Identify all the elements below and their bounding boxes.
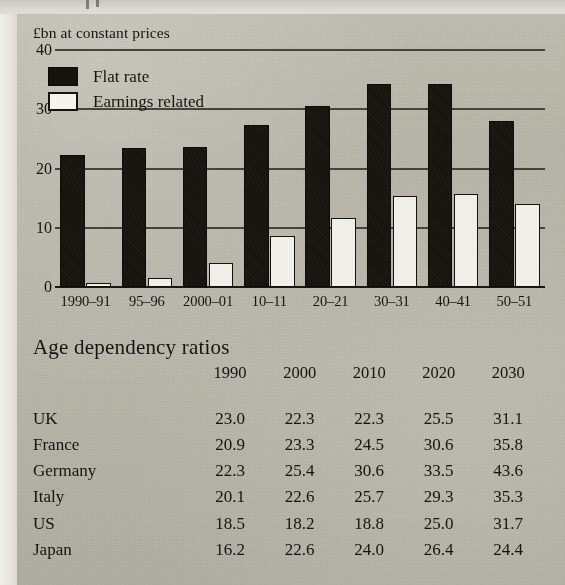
- bar-earnings-related: [515, 204, 540, 287]
- table-cell-germany-2020: 33.5: [406, 458, 476, 484]
- table-cell-us-2030: 31.7: [475, 510, 545, 536]
- legend-swatch-flat-rate-icon: [48, 67, 78, 86]
- table-header-row: 19902000201020202030: [33, 363, 545, 405]
- age-dependency-ratios-table: 19902000201020202030 UK23.022.322.325.53…: [33, 363, 545, 563]
- x-axis-label: 30–31: [361, 293, 422, 310]
- table-cell-us-1990: 18.5: [197, 510, 267, 536]
- bar-earnings-related: [148, 278, 173, 287]
- bar-earnings-related: [454, 194, 479, 287]
- table-cell-uk-2000: 22.3: [267, 405, 337, 431]
- clipped-text-above-crop: [0, 0, 565, 14]
- bar-group: [300, 50, 361, 287]
- legend-item-flat-rate: Flat rate: [48, 64, 278, 89]
- table-row-label: Japan: [33, 536, 197, 562]
- y-axis-tick-label-0: 0: [6, 279, 52, 295]
- table-cell-germany-2030: 43.6: [475, 458, 545, 484]
- bar-flat-rate: [244, 125, 269, 287]
- bar-earnings-related: [393, 196, 418, 287]
- chart-unit-label: £bn at constant prices: [33, 24, 170, 42]
- table-cell-germany-2000: 25.4: [267, 458, 337, 484]
- x-axis-label: 50–51: [484, 293, 545, 310]
- table-cell-uk-2030: 31.1: [475, 405, 545, 431]
- bar-earnings-related: [270, 236, 295, 287]
- table-row: US18.518.218.825.031.7: [33, 510, 545, 536]
- legend-swatch-earnings-related-icon: [48, 92, 78, 111]
- table-title: Age dependency ratios: [33, 335, 230, 360]
- table-row-label: Italy: [33, 484, 197, 510]
- bar-flat-rate: [60, 155, 85, 287]
- bar-earnings-related: [209, 263, 234, 287]
- x-axis-label: 2000–01: [178, 293, 239, 310]
- table-head: 19902000201020202030: [33, 363, 545, 405]
- table-header-year-2010: 2010: [336, 363, 406, 405]
- table-row: Germany22.325.430.633.543.6: [33, 458, 545, 484]
- table-cell-japan-2000: 22.6: [267, 536, 337, 562]
- table-cell-japan-2010: 24.0: [336, 536, 406, 562]
- bar-flat-rate: [367, 84, 392, 287]
- bar-earnings-related: [331, 218, 356, 287]
- y-axis-tick-label-10: 10: [6, 220, 52, 236]
- age-dependency-table-block: Age dependency ratios 199020002010202020…: [0, 335, 565, 585]
- bar-flat-rate: [489, 121, 514, 287]
- table-row-label: US: [33, 510, 197, 536]
- scanned-page: £bn at constant prices 010203040 1990–91…: [0, 0, 565, 585]
- x-axis-label: 10–11: [239, 293, 300, 310]
- y-axis-tick-label-40: 40: [6, 42, 52, 58]
- table-cell-france-2010: 24.5: [336, 431, 406, 457]
- x-axis-label: 1990–91: [55, 293, 116, 310]
- table-row: Japan16.222.624.026.424.4: [33, 536, 545, 562]
- y-axis-tick-label-30: 30: [6, 101, 52, 117]
- bar-flat-rate: [183, 147, 208, 287]
- bar-group: [484, 50, 545, 287]
- x-axis-labels: 1990–9195–962000–0110–1120–2130–3140–415…: [55, 293, 545, 319]
- table-cell-italy-2030: 35.3: [475, 484, 545, 510]
- bar-chart: £bn at constant prices 010203040 1990–91…: [0, 14, 565, 330]
- table-row: Italy20.122.625.729.335.3: [33, 484, 545, 510]
- bar-group: [361, 50, 422, 287]
- table-row-label: France: [33, 431, 197, 457]
- table-cell-italy-2010: 25.7: [336, 484, 406, 510]
- bar-group: [423, 50, 484, 287]
- table-cell-italy-1990: 20.1: [197, 484, 267, 510]
- table-cell-germany-1990: 22.3: [197, 458, 267, 484]
- bar-flat-rate: [122, 148, 147, 287]
- table-cell-us-2020: 25.0: [406, 510, 476, 536]
- table-header-year-2030: 2030: [475, 363, 545, 405]
- x-axis-label: 20–21: [300, 293, 361, 310]
- table-body: UK23.022.322.325.531.1France20.923.324.5…: [33, 405, 545, 563]
- table-row-label: Germany: [33, 458, 197, 484]
- table-cell-uk-2010: 22.3: [336, 405, 406, 431]
- table-cell-japan-1990: 16.2: [197, 536, 267, 562]
- table-cell-uk-2020: 25.5: [406, 405, 476, 431]
- table-header-year-2020: 2020: [406, 363, 476, 405]
- table-cell-italy-2020: 29.3: [406, 484, 476, 510]
- x-axis-label: 95–96: [116, 293, 177, 310]
- table-cell-japan-2030: 24.4: [475, 536, 545, 562]
- legend-item-earnings-related: Earnings related: [48, 89, 278, 114]
- table-cell-japan-2020: 26.4: [406, 536, 476, 562]
- legend-label-earnings-related: Earnings related: [93, 93, 204, 110]
- table-header-country: [33, 363, 197, 405]
- table-header-year-2000: 2000: [267, 363, 337, 405]
- table-row-label: UK: [33, 405, 197, 431]
- table-cell-us-2000: 18.2: [267, 510, 337, 536]
- bar-earnings-related: [86, 283, 111, 287]
- table-cell-germany-2010: 30.6: [336, 458, 406, 484]
- table-cell-us-2010: 18.8: [336, 510, 406, 536]
- chart-legend: Flat rate Earnings related: [48, 64, 278, 114]
- y-axis-ticks: 010203040: [0, 50, 52, 287]
- x-axis-label: 40–41: [423, 293, 484, 310]
- y-axis-tick-label-20: 20: [6, 161, 52, 177]
- bar-flat-rate: [305, 106, 330, 287]
- table-cell-france-2030: 35.8: [475, 431, 545, 457]
- legend-label-flat-rate: Flat rate: [93, 68, 149, 85]
- table-cell-france-2000: 23.3: [267, 431, 337, 457]
- table-cell-uk-1990: 23.0: [197, 405, 267, 431]
- table-cell-italy-2000: 22.6: [267, 484, 337, 510]
- table-cell-france-2020: 30.6: [406, 431, 476, 457]
- table-cell-france-1990: 20.9: [197, 431, 267, 457]
- table-header-year-1990: 1990: [197, 363, 267, 405]
- table-row: UK23.022.322.325.531.1: [33, 405, 545, 431]
- bar-flat-rate: [428, 84, 453, 287]
- table-row: France20.923.324.530.635.8: [33, 431, 545, 457]
